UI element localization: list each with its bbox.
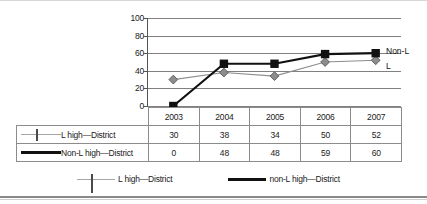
- square-marker-icon: [220, 60, 228, 68]
- table-row-header: 2003 2004 2005 2006 2007: [17, 108, 402, 126]
- figure-bottom-border-shadow: [0, 199, 427, 200]
- table-row-label-text: L high—District: [61, 130, 115, 140]
- y-tick-mark-40: [143, 71, 147, 72]
- diamond-marker-icon: [91, 175, 93, 193]
- series-annotation-l: L: [386, 62, 391, 71]
- figure-bottom-border: [0, 196, 427, 198]
- square-marker-icon: [372, 49, 380, 57]
- series-annotation-non-l: Non-L: [386, 47, 409, 56]
- legend-label: non-L high—District: [269, 174, 340, 184]
- data-table: 2003 2004 2005 2006 2007 L high—District: [16, 107, 402, 162]
- legend-key-non-l-high: [228, 174, 266, 185]
- table-header-2006: 2006: [300, 108, 351, 126]
- y-tick-label-20: 20: [118, 84, 144, 92]
- table-header-2004: 2004: [199, 108, 250, 126]
- legend-item-l-high: L high—District: [77, 174, 172, 185]
- y-tick-mark-80: [143, 36, 147, 37]
- table-header-2003: 2003: [149, 108, 200, 126]
- table-cell-nonl-2003: 0: [149, 144, 200, 162]
- series-key-line: [21, 151, 61, 154]
- table-cell-nonl-2005: 48: [250, 144, 301, 162]
- y-tick-label-60: 60: [118, 49, 144, 57]
- chart-legend: L high—District non-L high—District: [16, 172, 401, 186]
- diamond-marker-icon: [220, 68, 229, 77]
- diamond-marker-icon: [36, 130, 38, 140]
- chart-figure: 100 80 60 40 20 0 Non-L L: [0, 0, 427, 204]
- plot-region: 100 80 60 40 20 0 Non-L L: [0, 0, 427, 120]
- table-header-2007: 2007: [351, 108, 402, 126]
- y-axis-tick-labels: 100 80 60 40 20 0: [118, 14, 144, 106]
- table-row-label-l-high: L high—District: [17, 126, 149, 144]
- legend-key-line: [77, 179, 115, 180]
- series-key-non-l-high: [21, 147, 61, 158]
- table-cell-nonl-2004: 48: [199, 144, 250, 162]
- series-key-l-high: [21, 129, 61, 140]
- series-plot-svg: [148, 18, 401, 106]
- table-cell-l-2005: 34: [250, 126, 301, 144]
- table-header-2005: 2005: [250, 108, 301, 126]
- table-cell-nonl-2007: 60: [351, 144, 402, 162]
- diamond-marker-icon: [270, 72, 279, 81]
- table-header-blank: [17, 108, 149, 126]
- legend-key-l-high: [77, 174, 115, 185]
- table-row-label-non-l-high: Non-L high—District: [17, 144, 149, 162]
- diamond-marker-icon: [169, 75, 178, 84]
- y-tick-mark-60: [143, 53, 147, 54]
- legend-item-non-l-high: non-L high—District: [228, 174, 340, 185]
- series-key-line: [21, 134, 61, 135]
- table-cell-l-2006: 50: [300, 126, 351, 144]
- y-tick-label-40: 40: [118, 67, 144, 75]
- table-row-label-text: Non-L high—District: [61, 148, 133, 158]
- y-tick-label-100: 100: [118, 14, 144, 22]
- table-cell-l-2004: 38: [199, 126, 250, 144]
- table-row: L high—District 30 38 34 50 52: [17, 126, 402, 144]
- y-tick-label-80: 80: [118, 32, 144, 40]
- table-cell-nonl-2006: 59: [300, 144, 351, 162]
- table-cell-l-2003: 30: [149, 126, 200, 144]
- square-marker-icon: [321, 50, 329, 58]
- legend-key-line: [228, 178, 266, 181]
- legend-label: L high—District: [118, 174, 172, 184]
- diamond-marker-icon: [321, 58, 330, 67]
- table-cell-l-2007: 52: [351, 126, 402, 144]
- y-tick-mark-100: [143, 18, 147, 19]
- square-marker-icon: [270, 60, 278, 68]
- table-row: Non-L high—District 0 48 48 59 60: [17, 144, 402, 162]
- y-tick-mark-20: [143, 88, 147, 89]
